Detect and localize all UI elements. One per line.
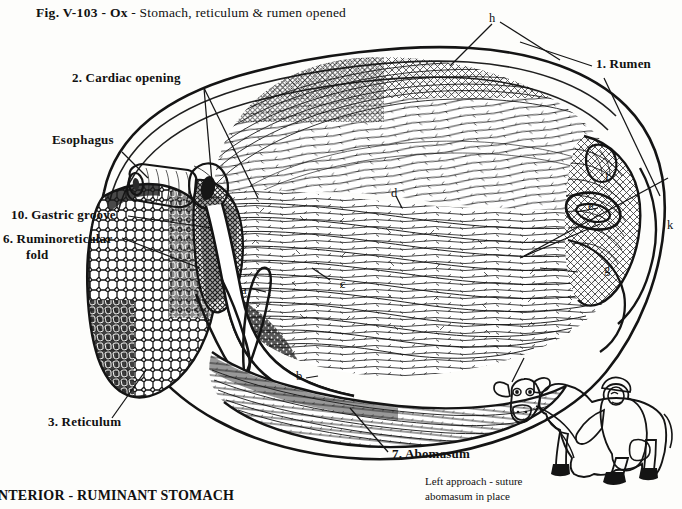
plate-caption: NTERIOR - RUMINANT STOMACH: [0, 488, 234, 504]
label-rumen: 1. Rumen: [596, 57, 651, 72]
letter-b: b: [296, 369, 302, 383]
label-gastric-groove: 10. Gastric groove: [11, 208, 116, 223]
letter-d: d: [391, 186, 397, 200]
letter-a: a: [241, 283, 247, 297]
inset-caption-line2: abomasum in place: [425, 489, 510, 504]
letter-f: f: [605, 169, 609, 183]
label-ruminoreticular-fold-line2: fold: [26, 248, 48, 263]
label-reticulum: 3. Reticulum: [48, 415, 121, 430]
letter-h: h: [489, 11, 495, 25]
letter-k: k: [667, 218, 673, 232]
label-cardiac-opening: 2. Cardiac opening: [72, 71, 181, 86]
label-esophagus: Esophagus: [52, 133, 114, 148]
figure-plate: Fig. V-103 - Ox - Stomach, reticulum & r…: [0, 0, 682, 509]
letter-g: g: [604, 262, 610, 276]
label-abomasum: 7. Abomasum: [392, 447, 470, 462]
inset-caption-line1: Left approach - suture: [425, 474, 522, 489]
letter-e: e: [588, 199, 594, 213]
letter-c: c: [340, 277, 346, 291]
label-ruminoreticular-fold-line1: 6. Ruminoreticular: [3, 232, 113, 247]
